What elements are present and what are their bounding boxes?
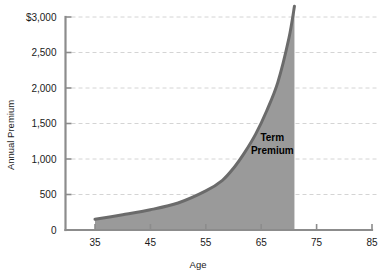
y-tick-label-1000: 1,000 [31,154,56,165]
x-axis-tick-labels-group: 354555657585 [89,237,378,248]
gridlines-group [72,17,379,195]
y-axis-tick-labels-group: 05001,0001,5002,0002,500$3,000 [26,12,57,236]
x-tick-label-35: 35 [89,237,101,248]
x-tick-label-55: 55 [200,237,212,248]
y-tick-label-2000: 2,000 [31,83,56,94]
y-tick-label-1500: 1,500 [31,118,56,129]
y-tick-label-3000: $3,000 [26,12,57,23]
term-premium-label-line2: Premium [251,145,294,156]
y-tick-label-2500: 2,500 [31,47,56,58]
annual-premium-area-chart: 05001,0001,5002,0002,500$3,000 354555657… [0,0,388,275]
x-tick-label-85: 85 [366,237,378,248]
x-tick-label-75: 75 [311,237,323,248]
x-axis-title: Age [190,259,207,270]
y-tick-label-0: 0 [51,225,57,236]
x-tick-label-65: 65 [256,237,268,248]
chart-container: 05001,0001,5002,0002,500$3,000 354555657… [0,0,388,275]
y-axis-title: Annual Premium [5,100,16,170]
term-premium-label-line1: Term [260,132,284,143]
x-tick-label-45: 45 [145,237,157,248]
y-tick-label-500: 500 [40,189,57,200]
